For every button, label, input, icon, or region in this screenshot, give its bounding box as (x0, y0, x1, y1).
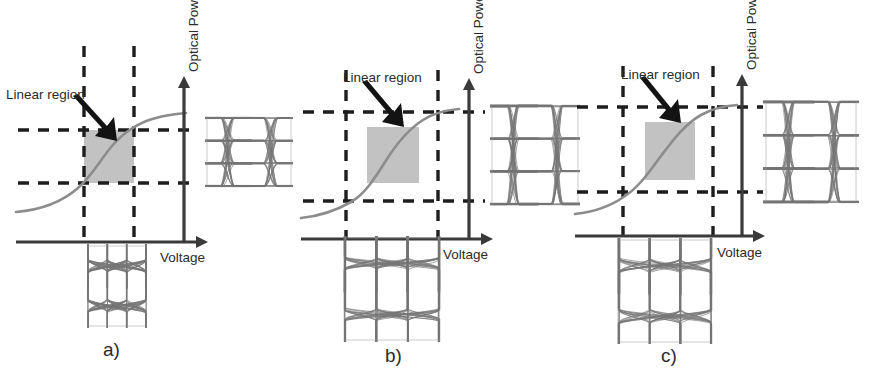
eye-trace (618, 188, 649, 295)
eye-trace (408, 236, 439, 343)
eye-trace (204, 118, 294, 141)
eye-trace (345, 236, 376, 343)
eye-trace (650, 186, 681, 293)
eye-trace (88, 245, 146, 329)
eye-trace (763, 102, 860, 202)
eye-trace (376, 237, 407, 344)
panel-caption-a: a) (103, 339, 120, 360)
eye-trace (445, 138, 537, 171)
x-axis-label: Voltage (717, 245, 762, 260)
eye-trace (160, 141, 250, 164)
eye-trace (681, 238, 712, 345)
eye-trace (375, 236, 406, 343)
eye-trace (204, 164, 294, 187)
eye-trace (205, 118, 295, 186)
linear-region-label: Linear region (6, 87, 85, 102)
eye-trace (619, 185, 711, 292)
eye-trace (205, 163, 295, 186)
eye-trace (763, 169, 860, 202)
eye-trace (619, 236, 650, 343)
eye-trace (717, 102, 814, 135)
linear-region-box (645, 122, 695, 180)
eye-trace (444, 172, 536, 205)
eye-trace (160, 141, 250, 164)
eye-trace (762, 101, 859, 134)
eye-trace (681, 187, 712, 294)
output-eye-diagram (444, 105, 583, 205)
eye-trace (620, 238, 712, 345)
eye-trace (620, 186, 712, 293)
eye-trace (205, 118, 295, 141)
eye-trace (204, 118, 294, 141)
eye-trace (445, 107, 537, 140)
eye-trace (716, 169, 813, 202)
eye-trace (716, 169, 813, 202)
eye-trace (763, 102, 860, 202)
eye-trace (619, 238, 650, 345)
eye-trace (161, 118, 251, 186)
eye-trace (127, 205, 146, 289)
eye-trace (344, 183, 438, 290)
eye-trace (126, 244, 145, 328)
eye-trace (160, 118, 250, 186)
eye-trace (345, 234, 439, 341)
eye-trace (205, 118, 295, 186)
eye-trace (88, 203, 146, 287)
eye-trace (160, 118, 250, 141)
eye-trace (376, 235, 407, 342)
eye-trace (444, 105, 536, 203)
eye-trace (127, 203, 146, 287)
eye-trace (619, 237, 650, 344)
eye-trace (161, 141, 251, 164)
eye-trace (407, 237, 438, 344)
eye-trace (107, 203, 126, 287)
eye-trace (108, 243, 127, 327)
eye-trace (717, 135, 814, 168)
eye-trace (445, 171, 537, 204)
output-eye-diagram (160, 117, 296, 186)
eye-trace (127, 243, 146, 327)
eye-trace (345, 236, 376, 343)
eye-trace (763, 102, 860, 135)
eye-trace (88, 244, 146, 328)
eye-trace (681, 237, 712, 344)
eye-trace (88, 244, 146, 328)
eye-trace (107, 204, 126, 288)
eye-trace (763, 101, 860, 134)
panel-c: Linear region Voltage Optical Power c) (567, 0, 859, 374)
eye-trace (763, 136, 860, 169)
eye-trace (107, 243, 126, 327)
eye-trace (108, 244, 127, 328)
eye-trace (650, 186, 681, 293)
eye-trace (445, 139, 537, 172)
eye-trace (345, 236, 439, 343)
eye-trace (345, 237, 439, 344)
eye-trace (161, 117, 251, 185)
eye-trace (89, 205, 108, 289)
eye-trace (344, 236, 375, 343)
eye-trace (649, 238, 680, 345)
eye-trace (620, 237, 712, 344)
eye-trace (160, 163, 250, 186)
linear-region-arrow (351, 80, 404, 127)
eye-trace (126, 203, 145, 287)
eye-trace (204, 118, 294, 186)
x-axis-arrow (196, 236, 208, 248)
eye-trace (161, 141, 251, 164)
eye-trace (717, 169, 814, 202)
eye-trace (444, 105, 536, 203)
eye-trace (88, 243, 107, 327)
eye-trace (763, 101, 860, 134)
input-eye-diagram (87, 203, 146, 329)
eye-trace (88, 243, 107, 327)
eye-trace (88, 204, 107, 288)
eye-trace (444, 139, 536, 172)
eye-trace (88, 204, 146, 288)
eye-trace (205, 163, 295, 186)
eye-trace (680, 236, 711, 343)
eye-trace (764, 135, 861, 168)
eye-trace (203, 164, 293, 187)
x-axis-label: Voltage (443, 247, 488, 262)
eye-trace (762, 136, 859, 169)
eye-trace (764, 102, 861, 202)
